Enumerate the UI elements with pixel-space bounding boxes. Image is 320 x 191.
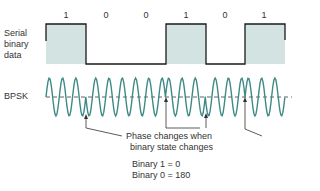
phase-change-caption: Phase changes when binary state changes: [126, 131, 266, 153]
legend-line: Binary 0 = 180: [132, 170, 190, 181]
phase-legend: Binary 1 = 0 Binary 0 = 180: [132, 159, 190, 181]
serial-data-waveform: [46, 24, 285, 64]
legend-line: Binary 1 = 0: [132, 159, 190, 170]
caption-line: binary state changes: [126, 142, 266, 153]
caption-line: Phase changes when: [126, 131, 266, 142]
